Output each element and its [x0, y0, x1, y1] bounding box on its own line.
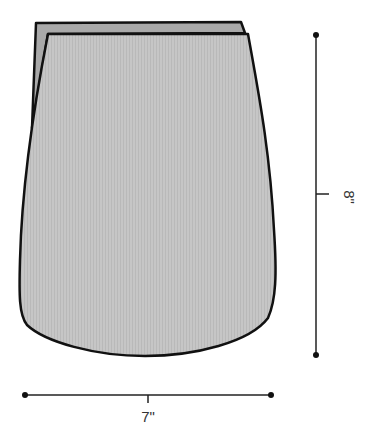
- height-dimension: [313, 32, 329, 358]
- height-label: 8": [342, 190, 357, 204]
- width-label: 7": [141, 409, 155, 424]
- diagram-canvas: [0, 0, 376, 448]
- front-piece: [20, 34, 276, 356]
- width-dimension: [22, 392, 274, 403]
